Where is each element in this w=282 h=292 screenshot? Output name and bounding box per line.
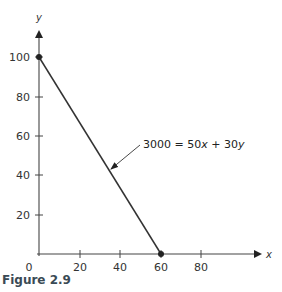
chart-canvas: 100 80 60 40 20 0 20 40 60 80 y x 3000 =… [0,0,282,292]
y-tick-label: 40 [16,169,30,182]
point-60-0 [158,251,164,257]
y-axis-label: y [35,12,43,23]
annotation-arrow [111,145,140,169]
constraint-line [39,57,161,254]
x-tick-label: 80 [194,261,208,274]
x-tick-label: 40 [113,261,127,274]
point-0-100 [36,54,42,60]
x-tick-label: 20 [73,261,87,274]
y-tick-label: 60 [16,130,30,143]
x-tick-label: 60 [154,261,168,274]
equation-label: 3000 = 50x + 30y [143,138,245,151]
figure-caption: Figure 2.9 [2,273,71,287]
y-tick-label: 20 [16,209,30,222]
x-axis-label: x [265,249,272,260]
y-tick-label: 100 [9,51,30,64]
y-tick-label: 80 [16,91,30,104]
